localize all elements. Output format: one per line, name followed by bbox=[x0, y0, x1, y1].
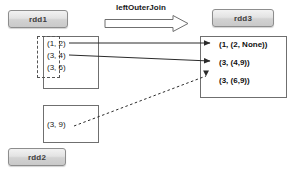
diagram-canvas: rdd1 rdd3 rdd2 leftOuterJoin (1, 2) (3, … bbox=[0, 0, 292, 176]
rdd1-item-2: (3, 6) bbox=[47, 63, 66, 73]
rdd3-item-0: (1, (2, None)) bbox=[219, 40, 267, 50]
rdd3-item-1: (3, (4,9)) bbox=[219, 58, 250, 68]
rdd1-item-1: (3, 4) bbox=[47, 51, 66, 61]
rdd1-label-chip: rdd1 bbox=[8, 10, 68, 28]
rdd2-label-chip: rdd2 bbox=[8, 148, 66, 166]
rdd1-item-0: (1, 2) bbox=[47, 39, 66, 49]
operation-caption: leftOuterJoin bbox=[116, 3, 166, 12]
left-outer-join-block-arrow bbox=[105, 16, 188, 32]
rdd2-label-text: rdd2 bbox=[28, 153, 46, 162]
rdd3-label-text: rdd3 bbox=[234, 14, 252, 23]
rdd1-label-text: rdd1 bbox=[29, 15, 47, 24]
rdd3-item-2: (3, (6,9)) bbox=[219, 76, 250, 86]
rdd2-item-0: (3, 9) bbox=[47, 120, 66, 130]
rdd3-label-chip: rdd3 bbox=[212, 9, 274, 27]
